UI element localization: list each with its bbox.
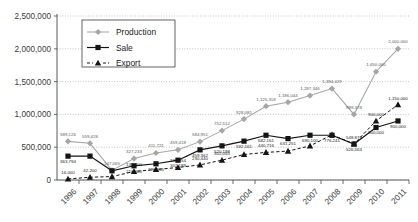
legend-label-export: Export bbox=[116, 58, 141, 68]
data-label-production-2011: 2,000,000 bbox=[388, 39, 408, 44]
triangle-marker bbox=[307, 143, 313, 149]
diamond-marker bbox=[175, 147, 181, 153]
y-axis-label: 500,000 bbox=[21, 143, 51, 152]
data-label-production-1999: 327,233 bbox=[126, 149, 142, 154]
data-label-sale-2008: 776,241 bbox=[324, 138, 340, 143]
diamond-marker bbox=[219, 128, 225, 134]
data-label-sale-2011: 900,000 bbox=[390, 124, 406, 129]
data-label-export-2011: 1,150,000 bbox=[388, 96, 408, 101]
x-axis-label-2003: 2003 bbox=[213, 187, 233, 207]
square-marker bbox=[95, 45, 100, 50]
data-label-sale-1999: 216,300 bbox=[126, 169, 142, 174]
chart-container: 0500,0001,000,0001,500,0002,000,0002,500… bbox=[0, 0, 418, 222]
x-axis-label-2008: 2008 bbox=[323, 187, 343, 207]
x-axis-label-2000: 2000 bbox=[147, 187, 167, 207]
data-label-sale-2007: 690,100 bbox=[302, 138, 318, 143]
y-axis-label: 1,000,000 bbox=[15, 110, 52, 119]
triangle-marker bbox=[373, 118, 379, 124]
x-axis-label-1998: 1998 bbox=[103, 187, 123, 207]
line-chart: 0500,0001,000,0001,500,0002,000,0002,500… bbox=[0, 0, 418, 222]
y-axis-label: 2,000,000 bbox=[15, 45, 52, 54]
data-label-sale-2009: 526,563 bbox=[346, 147, 362, 152]
x-axis-label-2007: 2007 bbox=[301, 187, 321, 207]
diamond-marker bbox=[153, 150, 159, 156]
data-label-export-1996: 16,000 bbox=[61, 170, 75, 175]
diamond-marker bbox=[131, 155, 137, 161]
x-axis-label-2002: 2002 bbox=[191, 187, 211, 207]
x-axis-label-1997: 1997 bbox=[81, 187, 101, 207]
data-label-production-2010: 1,650,000 bbox=[366, 62, 386, 67]
data-label-production-2004: 928,081 bbox=[236, 110, 252, 115]
data-label-production-2003: 752,512 bbox=[214, 121, 230, 126]
square-marker bbox=[87, 154, 92, 159]
data-label-production-1996: 589,126 bbox=[60, 132, 76, 137]
y-axis-label: 0 bbox=[46, 176, 51, 185]
legend-label-sale: Sale bbox=[116, 43, 133, 53]
data-label-export-1997: 42,200 bbox=[83, 168, 97, 173]
y-axis-label: 2,500,000 bbox=[15, 12, 52, 21]
data-label-production-2000: 411,721 bbox=[148, 143, 164, 148]
data-label-production-2002: 584,951 bbox=[192, 132, 208, 137]
legend-marker-sale bbox=[95, 45, 100, 50]
diamond-marker bbox=[285, 99, 291, 105]
data-label-production-2009: 999,378 bbox=[346, 105, 362, 110]
data-label-production-2006: 1,186,044 bbox=[278, 93, 298, 98]
diamond-marker bbox=[241, 116, 247, 122]
x-axis-label-2005: 2005 bbox=[257, 187, 277, 207]
diamond-marker bbox=[197, 139, 203, 145]
x-axis-label-2010: 2010 bbox=[367, 187, 387, 207]
data-label-sale-2001: 302,189 bbox=[170, 163, 186, 168]
data-label-sale-2000: 296,965 bbox=[148, 167, 164, 172]
data-label-sale-2010: 800,000 bbox=[368, 130, 384, 135]
data-label-production-1998: 147,065 bbox=[104, 161, 120, 166]
data-label-sale-1996: 363,794 bbox=[60, 159, 76, 164]
x-axis-label-1996: 1996 bbox=[59, 187, 79, 207]
diamond-marker bbox=[263, 103, 269, 109]
diamond-marker bbox=[307, 92, 313, 98]
data-label-sale-2003: 520,198 bbox=[214, 149, 230, 154]
data-label-production-2005: 1,125,318 bbox=[256, 97, 276, 102]
data-label-production-2007: 1,287,346 bbox=[300, 86, 320, 91]
data-label-sale-2002: 459,362 bbox=[192, 153, 208, 158]
legend-label-production: Production bbox=[116, 27, 156, 37]
data-label-sale-2006: 631,251 bbox=[280, 141, 296, 146]
x-axis-label-2009: 2009 bbox=[345, 187, 365, 207]
triangle-marker bbox=[395, 101, 401, 107]
data-label-sale-2005: 682,161 bbox=[258, 138, 274, 143]
data-label-production-2008: 1,394,029 bbox=[322, 79, 342, 84]
diamond-marker bbox=[65, 138, 71, 144]
x-axis-label-2001: 2001 bbox=[169, 187, 189, 207]
data-label-export-2010: 900,000 bbox=[368, 112, 384, 117]
square-marker bbox=[109, 168, 114, 173]
x-axis-label-2011: 2011 bbox=[390, 187, 409, 206]
y-axis-label: 1,500,000 bbox=[15, 78, 52, 87]
x-axis-label-2006: 2006 bbox=[279, 187, 299, 207]
data-label-sale-2004: 592,161 bbox=[236, 144, 252, 149]
data-label-export-2005: 440,716 bbox=[258, 143, 274, 148]
data-label-production-2001: 459,418 bbox=[170, 140, 186, 145]
x-axis-label-2004: 2004 bbox=[235, 187, 255, 207]
triangle-marker bbox=[285, 148, 291, 154]
x-axis-label-1999: 1999 bbox=[125, 187, 145, 207]
data-label-production-1997: 559,428 bbox=[82, 134, 98, 139]
